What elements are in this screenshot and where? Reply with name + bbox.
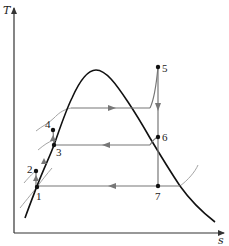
- label-3: 3: [56, 146, 62, 158]
- point-4: [51, 128, 55, 132]
- point-5: [156, 65, 160, 69]
- superheat-tail-7: [180, 165, 198, 186]
- point-6: [156, 135, 160, 139]
- label-6: 6: [162, 131, 168, 143]
- axes: T s: [3, 4, 224, 246]
- arrow-up-icon: [33, 175, 39, 181]
- state-points: [34, 65, 160, 189]
- arrow-up-icon: [50, 135, 56, 141]
- arrow-up-icon: [41, 158, 47, 164]
- arrow-left-icon: [102, 142, 110, 148]
- arrow-right-icon: [108, 105, 116, 111]
- point-7: [156, 184, 160, 188]
- t-axis-label: T: [3, 4, 12, 17]
- high-pressure-line: [38, 140, 54, 150]
- label-2: 2: [27, 163, 33, 175]
- label-5: 5: [162, 62, 168, 74]
- point-1: [35, 185, 39, 189]
- ts-diagram: T s: [0, 0, 229, 246]
- s-axis-label: s: [218, 234, 224, 246]
- point-2: [34, 169, 38, 173]
- label-1: 1: [36, 190, 42, 202]
- arrow-left-icon: [108, 183, 116, 189]
- arrow-down-icon: [155, 103, 161, 111]
- process-lines: [36, 67, 180, 186]
- superheat-curve: [150, 67, 158, 108]
- label-4: 4: [45, 118, 51, 130]
- label-7: 7: [155, 190, 161, 202]
